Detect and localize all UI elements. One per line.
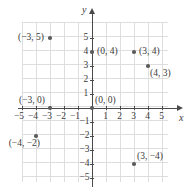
y-axis-tick: [90, 178, 94, 179]
y-axis-tick: [90, 66, 94, 67]
y-axis-tick: [90, 164, 94, 165]
gridline-horizontal: [22, 148, 168, 149]
plotted-point: [90, 106, 94, 110]
x-axis-tick: [22, 106, 23, 110]
plotted-point: [132, 162, 136, 166]
x-axis-tick: [162, 106, 163, 110]
gridline-horizontal: [22, 92, 168, 93]
y-tick-label: −1: [80, 117, 90, 127]
y-tick-label: −3: [80, 145, 90, 155]
y-tick-label: −5: [80, 173, 90, 183]
plotted-point: [90, 50, 94, 54]
y-tick-label: 2: [84, 75, 89, 85]
x-tick-label: 5: [159, 112, 164, 122]
y-axis-tick: [90, 150, 94, 151]
x-tick-label: 4: [145, 112, 150, 122]
gridline-horizontal: [22, 78, 168, 79]
x-tick-label: 3: [131, 112, 136, 122]
gridline-horizontal: [22, 22, 168, 23]
x-axis-tick: [78, 106, 79, 110]
y-axis-tick: [90, 94, 94, 95]
x-axis-arrow-icon: [177, 105, 183, 111]
y-axis-tick: [90, 136, 94, 137]
gridline-horizontal: [22, 106, 168, 107]
x-axis-line: [18, 108, 178, 109]
point-coordinate-label: (3, 4): [139, 47, 160, 57]
point-coordinate-label: (−3, 5): [18, 33, 44, 43]
y-axis-tick: [90, 38, 94, 39]
x-tick-label: −2: [56, 112, 66, 122]
x-tick-label: 1: [103, 112, 108, 122]
y-tick-label: 1: [84, 89, 89, 99]
point-coordinate-label: (−3, 0): [19, 96, 45, 106]
y-tick-label: 4: [84, 47, 89, 57]
x-axis-tick: [148, 106, 149, 110]
gridline-vertical: [120, 22, 121, 182]
x-tick-label: −4: [28, 112, 38, 122]
x-tick-label: −5: [14, 112, 24, 122]
y-tick-label: −4: [80, 159, 90, 169]
y-axis-arrow-icon: [89, 8, 95, 14]
point-coordinate-label: (0, 4): [97, 47, 118, 57]
x-axis-tick: [36, 106, 37, 110]
y-axis-tick: [90, 80, 94, 81]
gridline-vertical: [78, 22, 79, 182]
y-axis-label: y: [82, 5, 86, 15]
coordinate-plane-figure: −5−4−3−2−11234554321−1−2−3−4−5 x y (−3, …: [0, 0, 195, 195]
y-axis-tick: [90, 122, 94, 123]
x-axis-tick: [106, 106, 107, 110]
gridline-vertical: [64, 22, 65, 182]
plotted-point: [48, 106, 52, 110]
gridline-vertical: [50, 22, 51, 182]
gridline-horizontal: [22, 134, 168, 135]
point-coordinate-label: (4, 3): [150, 69, 171, 79]
point-coordinate-label: (3, −4): [137, 152, 163, 162]
x-axis-tick: [134, 106, 135, 110]
y-axis-line: [92, 14, 93, 187]
plotted-point: [48, 36, 52, 40]
gridline-horizontal: [22, 162, 168, 163]
x-axis-tick: [64, 106, 65, 110]
plotted-point: [132, 50, 136, 54]
gridline-vertical: [134, 22, 135, 182]
y-tick-label: −2: [80, 131, 90, 141]
x-tick-label: −3: [42, 112, 52, 122]
point-coordinate-label: (−4, −2): [9, 139, 40, 149]
x-tick-label: 2: [117, 112, 122, 122]
x-axis-label: x: [179, 113, 183, 123]
gridline-horizontal: [22, 176, 168, 177]
y-tick-label: 5: [84, 33, 89, 43]
y-tick-label: 3: [84, 61, 89, 71]
x-axis-tick: [120, 106, 121, 110]
point-coordinate-label: (0, 0): [95, 96, 116, 106]
